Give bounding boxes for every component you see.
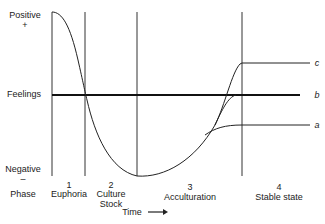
outcome-curve-a xyxy=(205,125,310,135)
phase-4-name: Stable state xyxy=(244,192,314,202)
phase-4-number: 4 xyxy=(244,182,314,192)
time-label: Time xyxy=(118,207,146,217)
phase-3-number: 3 xyxy=(150,182,230,192)
feelings-label: Feelings xyxy=(2,89,46,99)
phase-2-name: Culture xyxy=(88,189,134,199)
phase-1-name: Euphoria xyxy=(48,189,90,199)
outcome-c-label: c xyxy=(312,58,322,68)
outcome-a-label: a xyxy=(312,120,322,130)
negative-label: Negative xyxy=(2,164,44,174)
positive-sign: + xyxy=(4,20,46,30)
time-arrow-head-icon xyxy=(163,209,168,215)
positive-label: Positive xyxy=(4,10,46,20)
phase-label: Phase xyxy=(6,189,40,199)
outcome-b-label: b xyxy=(312,90,322,100)
phase-3-name: Acculturation xyxy=(150,192,230,202)
negative-sign: – xyxy=(2,174,44,184)
